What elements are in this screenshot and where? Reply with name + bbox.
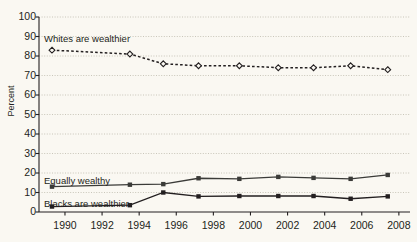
x-axis-tick-label: 2008 bbox=[387, 219, 410, 231]
y-axis-tick-label: 70 bbox=[12, 70, 36, 81]
data-point-marker bbox=[348, 177, 352, 181]
data-point-marker bbox=[196, 176, 200, 180]
y-axis-tick-label: 90 bbox=[12, 31, 36, 42]
x-axis-tick-label: 1994 bbox=[127, 219, 150, 231]
series-label-0: Whites are wealthier bbox=[44, 33, 130, 44]
data-point-marker bbox=[311, 176, 315, 180]
series-label-2: Blacks are wealthier bbox=[44, 198, 129, 209]
data-point-marker bbox=[161, 190, 165, 194]
x-axis-tick-label: 1998 bbox=[202, 219, 225, 231]
data-point-marker bbox=[237, 177, 241, 181]
data-point-marker bbox=[196, 194, 200, 198]
y-axis-tick-labels: 0102030405060708090100 bbox=[0, 0, 36, 242]
x-axis-tick-label: 1990 bbox=[53, 219, 76, 231]
y-axis-tick-label: 30 bbox=[12, 148, 36, 159]
y-axis-tick-label: 100 bbox=[12, 11, 36, 22]
x-axis-tick-label: 1996 bbox=[165, 219, 188, 231]
y-axis-tick-label: 60 bbox=[12, 89, 36, 100]
data-point-marker bbox=[161, 182, 165, 186]
data-point-marker bbox=[386, 173, 390, 177]
y-axis-tick-label: 80 bbox=[12, 50, 36, 61]
y-axis-tick-label: 40 bbox=[12, 128, 36, 139]
y-axis-tick-label: 50 bbox=[12, 109, 36, 120]
x-axis-tick-label: 2004 bbox=[313, 219, 336, 231]
data-point-marker bbox=[276, 175, 280, 179]
data-point-marker bbox=[386, 194, 390, 198]
chart-figure: Percent 0102030405060708090100 199019921… bbox=[0, 0, 417, 242]
data-point-marker bbox=[348, 197, 352, 201]
series-label-1: Equally wealthy bbox=[44, 175, 110, 186]
x-axis-tick-label: 2000 bbox=[239, 219, 262, 231]
data-point-marker bbox=[276, 194, 280, 198]
data-point-marker bbox=[237, 194, 241, 198]
y-axis-tick-label: 20 bbox=[12, 167, 36, 178]
y-axis-tick-label: 0 bbox=[12, 206, 36, 217]
data-point-marker bbox=[128, 183, 132, 187]
x-axis-tick-label: 2006 bbox=[350, 219, 373, 231]
data-point-marker bbox=[311, 194, 315, 198]
x-axis-tick-label: 1992 bbox=[90, 219, 113, 231]
y-axis-tick-label: 10 bbox=[12, 187, 36, 198]
x-axis-tick-label: 2002 bbox=[276, 219, 299, 231]
